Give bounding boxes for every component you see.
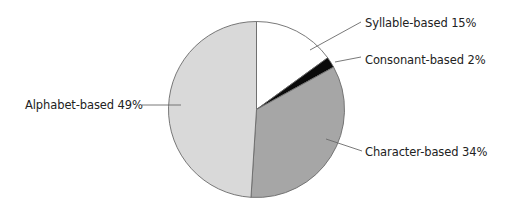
label-alphabet: Alphabet-based 49%: [25, 98, 143, 112]
label-consonant: Consonant-based 2%: [365, 53, 485, 67]
pie-slice-alphabet-based: [168, 22, 256, 198]
label-character: Character-based 34%: [365, 145, 487, 159]
leader-consonant: [335, 57, 361, 62]
label-syllable: Syllable-based 15%: [365, 16, 476, 30]
pie-slices: [168, 22, 344, 198]
leader-syllable: [310, 22, 361, 50]
